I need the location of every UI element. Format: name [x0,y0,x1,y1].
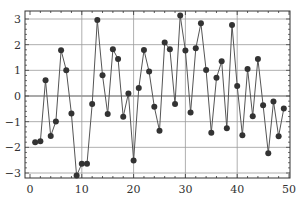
data-point [265,150,271,156]
data-point [125,90,131,96]
y-tick-label: −3 [5,167,21,180]
data-point [203,67,209,73]
data-point [281,106,287,112]
data-point [213,75,219,81]
y-tick-label: 2 [14,39,21,52]
y-tick-label: 3 [14,13,21,26]
data-point [245,66,251,72]
y-tick-label: −1 [5,116,21,129]
data-point [120,114,126,120]
x-tick-label: 40 [230,183,244,196]
data-point [167,46,173,52]
data-point [68,110,74,116]
data-point [260,102,266,108]
y-tick-label: −2 [5,141,21,154]
data-point [74,173,80,179]
data-point [53,118,59,124]
data-point [157,128,163,134]
data-point [151,104,157,110]
data-point [79,161,85,167]
data-point [43,77,49,83]
data-point [58,47,64,53]
data-point [94,17,100,23]
data-point [198,20,204,26]
data-point [131,157,137,163]
axis-tick-labels: 01020304050−3−2−10123 [5,13,296,196]
data-point [110,46,116,52]
data-point [89,101,95,107]
data-point [276,133,282,139]
data-point [162,40,168,46]
y-tick-label: 0 [14,90,21,103]
data-point [32,139,38,145]
data-point [234,83,240,89]
data-point [188,109,194,115]
data-point [182,48,188,54]
data-point [48,133,54,139]
data-point [193,45,199,51]
data-point [136,85,142,91]
x-tick-label: 10 [75,183,89,196]
data-point [63,67,69,73]
data-point [270,98,276,104]
data-point [229,22,235,28]
data-point [100,72,106,78]
x-tick-label: 20 [127,183,141,196]
data-point [172,101,178,107]
data-point [177,12,183,18]
line-chart: 01020304050−3−2−10123 [0,0,305,201]
data-point [239,132,245,138]
data-point [84,161,90,167]
x-tick-label: 0 [27,183,34,196]
data-point [37,138,43,144]
data-point [255,56,261,62]
data-point [146,69,152,75]
data-point [141,47,147,53]
data-point [250,113,256,119]
data-point [219,58,225,64]
data-point [105,111,111,117]
x-tick-label: 30 [178,183,192,196]
data-point [224,125,230,131]
x-tick-label: 50 [282,183,296,196]
data-point [115,56,121,62]
data-point [208,130,214,136]
y-tick-label: 1 [14,64,21,77]
